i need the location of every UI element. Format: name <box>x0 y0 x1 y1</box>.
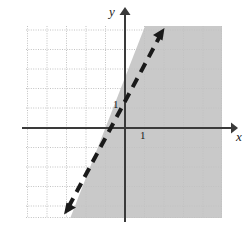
y-axis-tick-label-1: 1 <box>113 99 119 110</box>
coordinate-plane-svg <box>0 0 250 229</box>
graph-figure: y x 1 1 <box>0 0 250 229</box>
x-axis-label: x <box>236 130 242 143</box>
y-axis-label: y <box>109 5 115 18</box>
x-axis-tick-label-1: 1 <box>140 130 146 141</box>
